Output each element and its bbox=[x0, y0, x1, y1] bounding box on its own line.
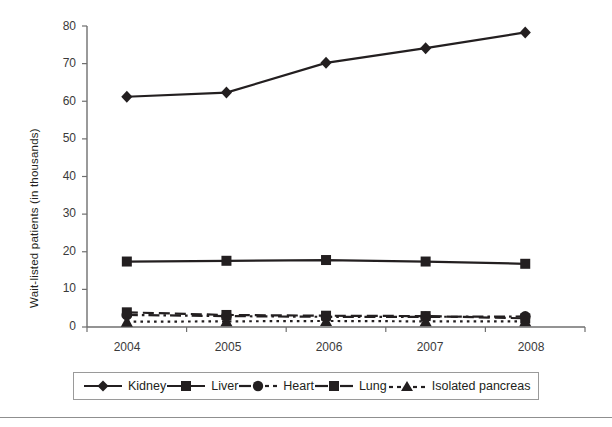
legend-label-kidney: Kidney bbox=[128, 379, 166, 393]
legend-item-lung[interactable]: Lung bbox=[314, 379, 387, 393]
x-axis-ticks bbox=[87, 327, 585, 332]
legend-label-isolated-pancreas: Isolated pancreas bbox=[432, 379, 531, 393]
square-marker-icon bbox=[314, 379, 354, 393]
legend-label-heart: Heart bbox=[283, 379, 314, 393]
legend-label-lung: Lung bbox=[359, 379, 387, 393]
plot-area bbox=[0, 0, 612, 427]
square-marker-icon bbox=[166, 379, 206, 393]
legend-item-heart[interactable]: Heart bbox=[238, 379, 314, 393]
y-axis-ticks bbox=[82, 26, 87, 327]
chart-figure: Wait-listed patients (in thousands) 0 10… bbox=[0, 0, 612, 427]
legend-item-isolated-pancreas[interactable]: Isolated pancreas bbox=[387, 379, 531, 393]
legend-item-kidney[interactable]: Kidney bbox=[83, 379, 166, 393]
series-layer bbox=[121, 26, 531, 326]
bottom-divider bbox=[0, 417, 612, 418]
circle-marker-icon bbox=[238, 379, 278, 393]
legend-label-liver: Liver bbox=[211, 379, 238, 393]
triangle-marker-icon bbox=[387, 379, 427, 393]
legend: Kidney Liver Heart Lung bbox=[73, 372, 539, 400]
series-liver bbox=[122, 255, 530, 269]
diamond-marker-icon bbox=[83, 379, 123, 393]
series-kidney bbox=[121, 26, 531, 102]
legend-item-liver[interactable]: Liver bbox=[166, 379, 238, 393]
